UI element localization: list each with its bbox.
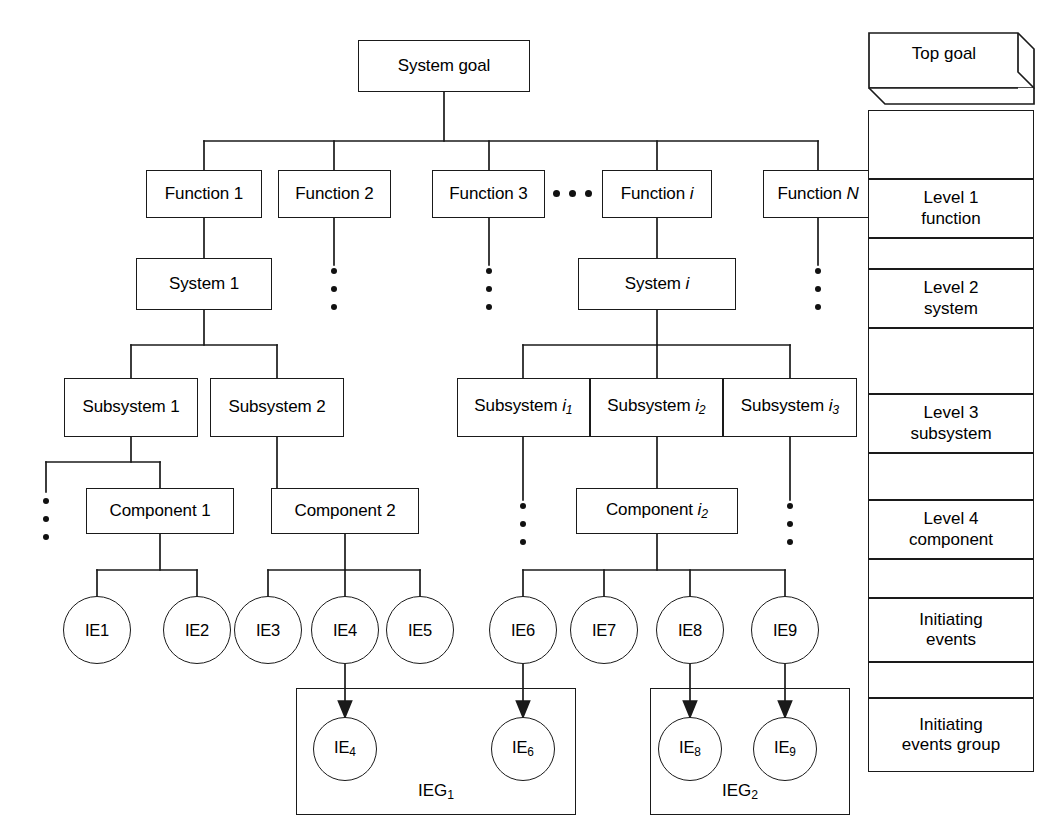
legend-spacer-1: [868, 110, 1034, 179]
circle-label: IE2: [185, 621, 209, 640]
node-function-2[interactable]: Function 2: [278, 170, 391, 218]
legend-top-goal-label: Top goal: [868, 44, 1020, 64]
node-label: Subsystem i2: [607, 397, 705, 418]
legend-row-level-1: Level 1function: [868, 179, 1034, 238]
circle-label: IE5: [408, 621, 432, 640]
node-subsystem-i3[interactable]: Subsystem i3: [723, 378, 857, 437]
node-label: System 1: [169, 275, 239, 294]
initiating-event-ie4[interactable]: IE4: [311, 596, 379, 664]
circle-label: IE3: [256, 621, 280, 640]
legend-spacer-5: [868, 559, 1034, 598]
vertical-ellipsis-subsystem-i3: [786, 503, 794, 545]
node-system-i[interactable]: System i: [578, 258, 736, 310]
node-label: Subsystem i1: [474, 397, 572, 418]
circle-label: IE8: [678, 621, 702, 640]
node-function-n[interactable]: Function N: [763, 170, 873, 218]
node-component-2[interactable]: Component 2: [271, 488, 419, 534]
initiating-event-ie6[interactable]: IE6: [489, 596, 557, 664]
legend-row-level-4: Level 4component: [868, 500, 1034, 559]
node-label: Subsystem 1: [82, 398, 179, 417]
node-label: System goal: [398, 57, 490, 76]
node-subsystem-1[interactable]: Subsystem 1: [64, 378, 198, 437]
node-component-i2[interactable]: Component i2: [576, 488, 738, 534]
legend-row-label: Level 1function: [921, 188, 981, 229]
legend-row-label: Initiatingevents group: [902, 715, 1000, 756]
node-system-1[interactable]: System 1: [136, 258, 272, 310]
node-label: Subsystem 2: [228, 398, 325, 417]
circle-label: IE6: [512, 738, 534, 759]
initiating-event-ie7[interactable]: IE7: [570, 596, 638, 664]
node-label: Component 2: [295, 502, 396, 521]
node-function-1[interactable]: Function 1: [146, 170, 262, 218]
legend-spacer-3: [868, 328, 1034, 394]
node-function-3[interactable]: Function 3: [432, 170, 545, 218]
node-label: Function 2: [295, 185, 373, 204]
initiating-event-ie3[interactable]: IE3: [234, 596, 302, 664]
initiating-event-ie9[interactable]: IE9: [751, 596, 819, 664]
vertical-ellipsis-function-2: [330, 268, 338, 310]
vertical-ellipsis-subsystem-i1: [519, 503, 527, 545]
node-label: Component i2: [606, 501, 708, 522]
circle-label: IE7: [592, 621, 616, 640]
circle-label: IE1: [85, 621, 109, 640]
legend-spacer-6: [868, 662, 1034, 698]
legend-spacer-2: [868, 238, 1034, 269]
diagram-canvas: System goal Function 1 Function 2 Functi…: [0, 0, 1056, 835]
group-2-label: IEG2: [700, 781, 780, 802]
group-1-label: IEG1: [396, 781, 476, 802]
node-label: Subsystem i3: [741, 397, 839, 418]
legend-row-initiating-events: Initiatingevents: [868, 598, 1034, 662]
node-label: System i: [625, 275, 689, 294]
legend-row-level-2: Level 2system: [868, 269, 1034, 328]
node-subsystem-i1[interactable]: Subsystem i1: [457, 378, 590, 437]
circle-label: IE4: [334, 738, 356, 759]
legend-panel: Top goal Level 1function Level 2system L…: [868, 32, 1034, 814]
circle-label: IE8: [679, 738, 701, 759]
initiating-event-ie1[interactable]: IE1: [63, 596, 131, 664]
group-member-ie4[interactable]: IE4: [313, 717, 377, 781]
initiating-event-ie5[interactable]: IE5: [386, 596, 454, 664]
legend-row-label: Level 2system: [924, 278, 979, 319]
circle-label: IE6: [511, 621, 535, 640]
node-label: Component 1: [110, 502, 211, 521]
legend-row-initiating-events-group: Initiatingevents group: [868, 698, 1034, 772]
node-component-1[interactable]: Component 1: [86, 488, 234, 534]
node-label: Function N: [777, 185, 858, 204]
horizontal-ellipsis-functions: [553, 190, 592, 197]
node-subsystem-2[interactable]: Subsystem 2: [210, 378, 344, 437]
vertical-ellipsis-function-n: [814, 268, 822, 310]
circle-label: IE4: [333, 621, 357, 640]
circle-label: IE9: [773, 621, 797, 640]
initiating-event-ie2[interactable]: IE2: [163, 596, 231, 664]
node-label: Function 1: [165, 185, 243, 204]
vertical-ellipsis-subsystem-1: [42, 498, 50, 540]
legend-row-level-3: Level 3subsystem: [868, 394, 1034, 453]
group-member-ie8[interactable]: IE8: [658, 717, 722, 781]
initiating-event-ie8[interactable]: IE8: [656, 596, 724, 664]
group-member-ie6[interactable]: IE6: [491, 717, 555, 781]
legend-row-label: Level 4component: [909, 509, 993, 550]
legend-row-label: Initiatingevents: [919, 610, 982, 651]
node-label: Function 3: [449, 185, 527, 204]
circle-label: IE9: [774, 738, 796, 759]
node-label: Function i: [621, 185, 694, 204]
node-subsystem-i2[interactable]: Subsystem i2: [590, 378, 723, 437]
legend-spacer-4: [868, 453, 1034, 500]
group-member-ie9[interactable]: IE9: [753, 717, 817, 781]
vertical-ellipsis-function-3: [485, 268, 493, 310]
node-system-goal[interactable]: System goal: [358, 40, 530, 92]
node-function-i[interactable]: Function i: [602, 170, 712, 218]
legend-row-label: Level 3subsystem: [910, 403, 991, 444]
